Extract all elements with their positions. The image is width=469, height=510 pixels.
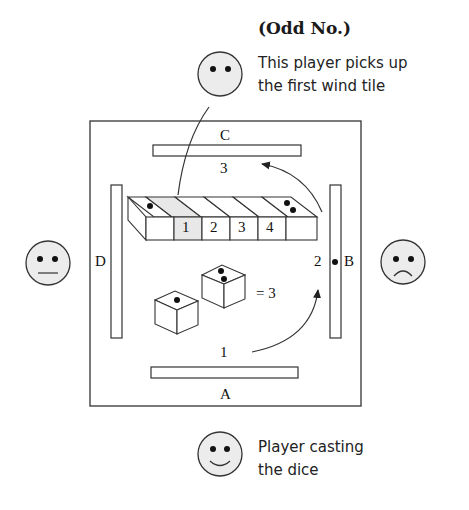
tile-number-3: 3	[238, 219, 246, 236]
tile-number-4: 4	[266, 219, 274, 236]
bottom-player-note: Player casting the dice	[258, 436, 364, 482]
top-note-line2: the first wind tile	[258, 75, 408, 98]
tile-wall	[128, 197, 317, 240]
bottom-note-line1: Player casting	[258, 436, 364, 459]
face-north-icon	[198, 52, 242, 96]
rack-south	[151, 367, 298, 378]
tile-number-2: 2	[210, 219, 218, 236]
face-west-icon	[26, 241, 70, 285]
dice-result: = 3	[256, 285, 276, 302]
count-label-north: 3	[220, 160, 228, 177]
top-note-line1: This player picks up	[258, 52, 408, 75]
count-label-south: 1	[220, 344, 228, 361]
seat-label-north: C	[220, 127, 230, 144]
bottom-note-line2: the dice	[258, 459, 364, 482]
count-label-east: 2	[314, 253, 322, 270]
rack-west	[111, 185, 122, 338]
seat-label-west: D	[95, 253, 106, 270]
top-player-note: This player picks up the first wind tile	[258, 52, 408, 98]
die-two	[202, 265, 245, 308]
tile-number-1: 1	[182, 219, 190, 236]
east-marker-dot	[332, 259, 338, 265]
seat-label-south: A	[220, 386, 231, 403]
rack-north	[153, 145, 301, 156]
die-one	[155, 291, 198, 334]
diagram-title: (Odd No.)	[258, 18, 351, 38]
face-east-icon	[381, 240, 425, 284]
face-south-icon	[198, 432, 242, 476]
seat-label-east: B	[344, 253, 354, 270]
